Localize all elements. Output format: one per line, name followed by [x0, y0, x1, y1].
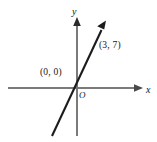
origin-letter-label: O [79, 91, 86, 100]
plotted-line-arrowhead [97, 21, 106, 30]
graph-canvas [0, 0, 157, 142]
point-coordinate-label: (3, 7) [99, 41, 121, 51]
origin-coordinate-label: (0, 0) [40, 68, 62, 78]
x-axis-label: x [146, 85, 150, 95]
y-axis-label: y [72, 7, 76, 17]
x-axis-arrowhead [134, 84, 143, 92]
coordinate-plane-figure: y x (0, 0) O (3, 7) [0, 0, 157, 142]
y-axis-arrowhead [73, 17, 81, 26]
